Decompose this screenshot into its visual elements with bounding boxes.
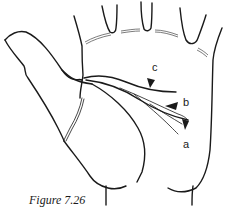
finger-gap-2 (141, 2, 152, 31)
label-a: a (183, 139, 189, 150)
palm-figure: c b a Figure 7.26 (0, 0, 227, 216)
finger-gap-3 (180, 8, 206, 44)
line-c (84, 76, 176, 92)
palm-lower-left (64, 141, 126, 189)
palm-right-edge (168, 28, 222, 192)
finger-crease-3b (155, 32, 178, 37)
thumb-lower-edge (5, 40, 64, 141)
finger-crease-1 (85, 33, 110, 42)
wrist-right (192, 186, 193, 205)
finger-crease-2b (121, 31, 140, 33)
figure-caption: Figure 7.26 (29, 193, 85, 208)
palm-left-edge (74, 16, 83, 98)
label-b: b (183, 97, 189, 108)
thumb-chain-line (64, 98, 82, 140)
label-c: c (152, 62, 158, 73)
hand-drawing (0, 0, 227, 216)
line-a (134, 94, 178, 134)
finger-crease-2 (121, 29, 140, 31)
finger-gap-1 (102, 5, 117, 33)
arrow-c-icon (147, 78, 155, 88)
thumb-chain-line-2 (66, 99, 84, 141)
finger-crease-4b (197, 50, 207, 57)
